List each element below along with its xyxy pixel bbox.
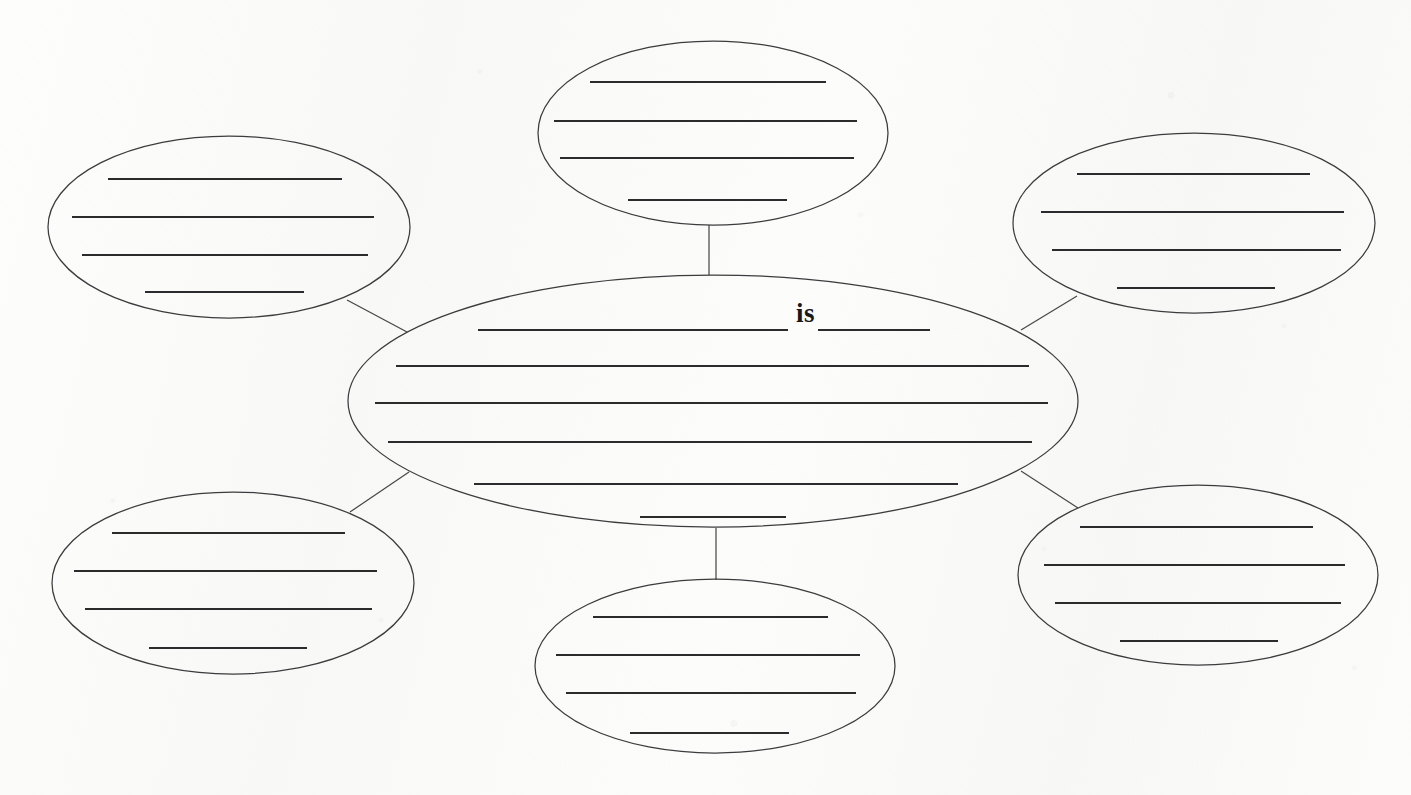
- ovals-group: [48, 41, 1378, 753]
- connector-center-to-top-left: [347, 300, 407, 332]
- bottom-oval[interactable]: [535, 579, 895, 753]
- write-lines-group: [72, 82, 1345, 733]
- top-left-oval[interactable]: [48, 136, 410, 318]
- connector-center-to-bottom-left: [350, 472, 409, 512]
- connector-center-to-top-right: [1021, 296, 1077, 330]
- top-oval[interactable]: [538, 41, 888, 225]
- center-oval[interactable]: [348, 275, 1078, 527]
- printed-word-is: is: [796, 300, 815, 327]
- concept-web-diagram: [0, 0, 1411, 795]
- bottom-right-oval[interactable]: [1018, 485, 1378, 665]
- connector-center-to-bottom-right: [1021, 471, 1078, 508]
- bottom-left-oval[interactable]: [52, 492, 414, 674]
- top-right-oval[interactable]: [1013, 133, 1375, 313]
- worksheet-page: is is: [0, 0, 1411, 795]
